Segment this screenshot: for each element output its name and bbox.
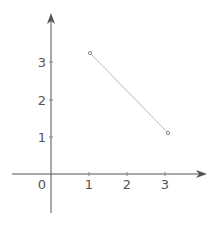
y-label-1: 1 xyxy=(38,130,46,145)
data-segment xyxy=(90,53,168,133)
point-start-marker xyxy=(88,51,91,54)
x-label-2: 2 xyxy=(123,177,131,192)
origin-label: 0 xyxy=(38,177,46,192)
chart-container: 0 1 2 3 1 2 3 xyxy=(0,0,217,226)
x-label-1: 1 xyxy=(85,177,93,192)
coordinate-plot: 0 1 2 3 1 2 3 xyxy=(0,0,217,226)
y-label-3: 3 xyxy=(38,55,46,70)
y-label-2: 2 xyxy=(38,93,46,108)
point-end-marker xyxy=(166,131,169,134)
x-label-3: 3 xyxy=(161,177,169,192)
